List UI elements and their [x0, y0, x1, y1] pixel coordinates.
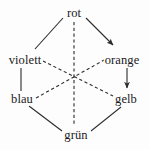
node-label-violett: violett: [8, 54, 43, 67]
node-label-gelb: gelb: [114, 93, 138, 106]
color-hexagon-diagram: rot violett orange blau gelb grün: [0, 0, 149, 150]
node-label-rot: rot: [66, 7, 82, 20]
edge-gelb-gruen: [91, 107, 121, 131]
node-label-gruen: grün: [63, 129, 88, 142]
node-label-orange: orange: [104, 54, 141, 67]
edge-rot-orange: [86, 18, 113, 45]
node-label-blau: blau: [10, 93, 34, 106]
edge-rot-violett: [35, 18, 63, 49]
edge-violett-gelb-dashed: [43, 61, 113, 96]
edge-blau-gruen: [29, 106, 62, 131]
edge-blau-orange-dashed: [36, 59, 106, 98]
